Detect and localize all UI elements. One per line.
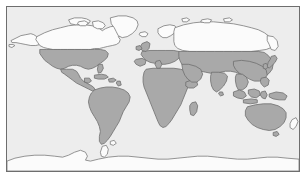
region-italy [155,60,162,68]
region-novaya-zemlya [201,19,212,23]
region-iceland [139,32,148,37]
world-map-svg [7,7,299,171]
world-map-image [0,0,307,177]
map-frame [6,6,300,172]
region-cuba [94,74,108,79]
region-java [243,99,257,104]
